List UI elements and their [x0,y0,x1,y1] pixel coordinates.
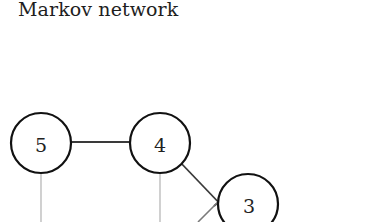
node-3-label: 3 [243,195,255,217]
graph-node-5: 5 [11,113,71,173]
graph-node-4: 4 [130,113,190,173]
markov-network-graph: 5 4 3 [0,0,369,222]
node-5-label: 5 [35,134,47,156]
node-4-label: 4 [154,134,166,156]
graph-node-3: 3 [218,174,278,222]
